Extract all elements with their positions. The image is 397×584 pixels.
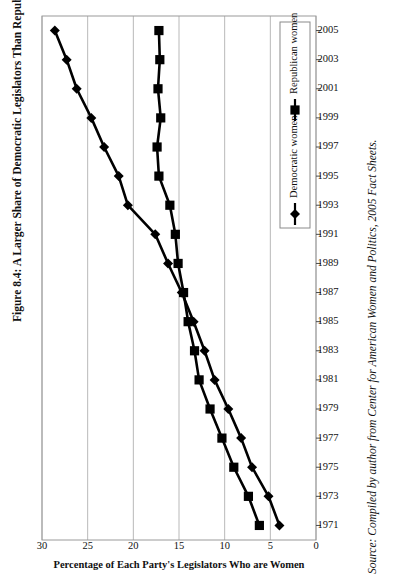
data-point-democratic [50,26,60,36]
y-axis-tick-label: 0 [313,540,318,551]
data-point-republican [255,521,264,530]
data-point-democratic [247,462,257,472]
legend-label: Democratic women [288,115,299,198]
x-axis-tick-label: 1977 [318,432,339,443]
x-axis-tick-label: 1985 [318,315,339,326]
series-line-republican [157,31,259,526]
x-axis-tick-label: 2005 [318,24,339,35]
y-axis-tick-label: 10 [219,540,230,551]
data-point-republican [153,84,162,93]
x-axis-tick-label: 1989 [318,257,339,268]
data-point-democratic [236,433,246,443]
data-point-republican [184,317,193,326]
figure-title: Figure 8.4: A Larger Share of Democratic… [8,0,26,322]
data-point-democratic [163,258,173,268]
data-point-republican [217,434,226,443]
data-point-republican [229,463,238,472]
line-chart: 051015202530Percentage of Each Party's L… [34,0,364,584]
data-point-democratic [99,142,109,152]
y-axis-tick-label: 25 [82,540,93,551]
data-point-republican [165,201,174,210]
data-point-republican [179,288,188,297]
series-line-democratic [55,31,280,526]
x-axis-tick-label: 1987 [318,286,339,297]
y-axis-tick-label: 30 [37,540,48,551]
legend-marker-diamond [290,209,300,219]
chart-container: 051015202530Percentage of Each Party's L… [34,0,364,584]
data-point-democratic [200,346,210,356]
x-axis-tick-label: 1983 [318,344,339,355]
legend-marker-square [290,105,299,114]
y-axis-tick-label: 5 [268,540,273,551]
y-axis-tick-label: 15 [174,540,185,551]
data-point-democratic [114,171,124,181]
data-point-republican [155,55,164,64]
x-axis-tick-label: 2001 [318,82,339,93]
x-axis-tick-label: 2003 [318,53,339,64]
data-point-democratic [62,55,72,65]
data-point-republican [194,375,203,384]
data-point-republican [154,26,163,35]
x-axis-tick-label: 1979 [318,402,339,413]
data-point-republican [152,142,161,151]
y-axis-tick-label: 20 [128,540,139,551]
data-point-republican [154,172,163,181]
data-point-republican [173,259,182,268]
data-point-democratic [264,491,274,501]
x-axis-tick-label: 1999 [318,111,339,122]
data-point-democratic [72,84,82,94]
data-point-democratic [274,520,284,530]
figure-source-note: Source: Compiled by author from Center f… [363,14,381,574]
legend-label: Republican women [288,12,299,94]
x-axis-tick-label: 1971 [318,519,339,530]
data-point-republican [190,346,199,355]
y-axis-title: Percentage of Each Party's Legislators W… [54,559,305,570]
data-point-republican [171,230,180,239]
x-axis-tick-label: 1997 [318,140,339,151]
data-point-democratic [210,375,220,385]
x-axis-tick-label: 1995 [318,170,339,181]
data-point-republican [156,113,165,122]
data-point-republican [244,492,253,501]
x-axis-tick-label: 1993 [318,199,339,210]
x-axis-tick-label: 1973 [318,490,339,501]
x-axis-tick-label: 1975 [318,461,339,472]
x-axis-tick-label: 1991 [318,228,339,239]
x-axis-tick-label: 1981 [318,373,339,384]
data-point-republican [205,404,214,413]
